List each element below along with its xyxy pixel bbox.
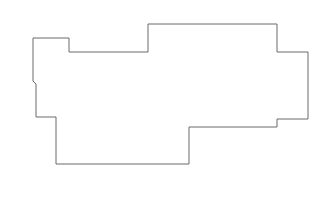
floor-plan-outline-svg bbox=[0, 0, 330, 218]
building-footprint-polygon bbox=[33, 24, 308, 164]
drawing-canvas bbox=[0, 0, 330, 218]
